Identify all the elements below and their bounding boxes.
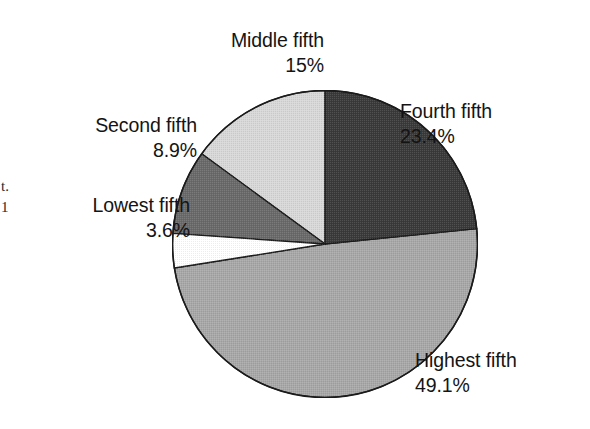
pie-label-fourth-fifth: Fourth fifth 23.4%	[400, 99, 590, 149]
pie-label-middle-fifth: Middle fifth 15%	[0, 28, 324, 78]
pie-label-middle-fifth-name: Middle fifth	[0, 28, 324, 53]
pie-label-lowest-fifth-value: 3.6%	[0, 218, 190, 243]
pie-chart-figure: t. 1	[0, 0, 590, 429]
pie-label-lowest-fifth: Lowest fifth 3.6%	[0, 193, 190, 243]
pie-label-lowest-fifth-name: Lowest fifth	[0, 193, 190, 218]
pie-label-second-fifth: Second fifth 8.9%	[0, 113, 197, 163]
pie-label-middle-fifth-value: 15%	[0, 53, 324, 78]
pie-label-second-fifth-name: Second fifth	[0, 113, 197, 138]
pie-label-highest-fifth-value: 49.1%	[415, 373, 590, 398]
pie-label-fourth-fifth-value: 23.4%	[400, 124, 590, 149]
pie-label-fourth-fifth-name: Fourth fifth	[400, 99, 590, 124]
pie-label-highest-fifth-name: Highest fifth	[415, 348, 590, 373]
pie-label-second-fifth-value: 8.9%	[0, 138, 197, 163]
pie-label-highest-fifth: Highest fifth 49.1%	[415, 348, 590, 398]
